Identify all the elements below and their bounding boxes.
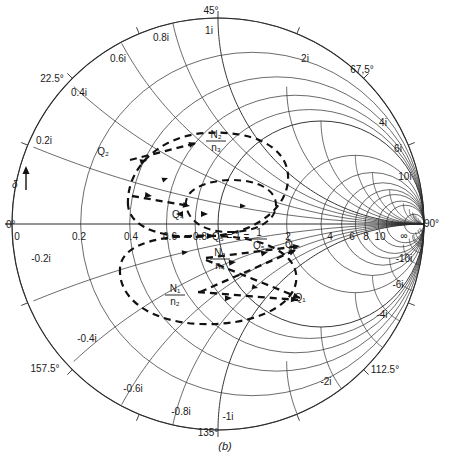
reactance-label-neg-8: -10i bbox=[396, 253, 413, 264]
svg-text:δ: δ bbox=[12, 179, 18, 190]
angle-label-5: 112.5° bbox=[371, 364, 399, 375]
annotation-Q4: Q₄ bbox=[172, 209, 184, 220]
svg-text:n₄: n₄ bbox=[215, 260, 225, 271]
reactance-label-pos-4: 1i bbox=[205, 25, 213, 36]
reactance-label-pos-8: 10i bbox=[398, 171, 411, 182]
resistance-label-3: 0.6 bbox=[163, 231, 177, 242]
figure-caption: (b) bbox=[0, 440, 450, 452]
smith-chart-canvas: δ0°22.5°45°67,5°90°112.5°135°157.5°00.20… bbox=[0, 0, 450, 454]
angle-label-7: 157.5° bbox=[30, 363, 59, 374]
angle-label-6: 135° bbox=[198, 427, 219, 438]
reactance-label-pos-3: 0.8i bbox=[153, 32, 169, 43]
reactance-label-neg-7: -6i bbox=[392, 279, 403, 290]
reactance-label-pos-1: 0.4i bbox=[71, 87, 87, 98]
svg-text:N₂: N₂ bbox=[210, 129, 221, 140]
resistance-label-2: 0.4 bbox=[124, 231, 138, 242]
angle-label-1: 22.5° bbox=[40, 73, 63, 84]
svg-text:N₃: N₃ bbox=[214, 247, 225, 258]
resistance-label-9: 10 bbox=[374, 231, 386, 242]
smith-chart-figure: δ0°22.5°45°67,5°90°112.5°135°157.5°00.20… bbox=[0, 0, 450, 454]
angle-label-4: 90° bbox=[424, 218, 439, 229]
reactance-label-neg-3: -0.8i bbox=[171, 406, 190, 417]
reactance-label-pos-2: 0.6i bbox=[110, 53, 126, 64]
svg-text:N₁: N₁ bbox=[170, 283, 181, 294]
annotation-Q2: Q₂ bbox=[97, 146, 109, 157]
svg-text:1: 1 bbox=[256, 227, 262, 238]
reactance-label-pos-7: 6i bbox=[394, 143, 402, 154]
svg-text:n₃: n₃ bbox=[211, 142, 221, 153]
reactance-label-neg-5: -2i bbox=[320, 376, 331, 387]
annotation-Q1: Q₁ bbox=[294, 292, 306, 303]
reactance-label-neg-6: -4i bbox=[376, 309, 387, 320]
resistance-label-0: 0 bbox=[14, 231, 20, 242]
reactance-label-neg-4: -1i bbox=[222, 411, 233, 422]
angle-label-2: 45° bbox=[203, 5, 218, 16]
resistance-label-8: 8 bbox=[363, 231, 369, 242]
reactance-label-pos-5: 2i bbox=[301, 53, 309, 64]
svg-text:n₂: n₂ bbox=[170, 296, 180, 307]
angle-label-0: 0° bbox=[6, 219, 16, 230]
annotation-Q3: Q₃ bbox=[285, 239, 297, 250]
reactance-label-pos-6: 4i bbox=[379, 117, 387, 128]
resistance-label-1: 0.2 bbox=[72, 231, 86, 242]
chart-background bbox=[0, 0, 450, 454]
angle-label-3: 67,5° bbox=[350, 64, 373, 75]
reactance-label-neg-0: -0.2i bbox=[31, 253, 50, 264]
resistance-label-7: 6 bbox=[349, 231, 355, 242]
reactance-label-neg-1: -0.4i bbox=[77, 333, 96, 344]
resistance-label-6: 4 bbox=[327, 231, 333, 242]
reactance-label-pos-0: 0.2i bbox=[36, 135, 52, 146]
svg-text:Q₅ = 1 =: Q₅ = 1 = bbox=[212, 231, 250, 242]
reactance-label-neg-2: -0.6i bbox=[123, 383, 142, 394]
resistance-label-4: 0.8 bbox=[193, 231, 207, 242]
svg-text:Q₅: Q₅ bbox=[253, 240, 265, 251]
resistance-label-10: ∞ bbox=[400, 230, 407, 241]
